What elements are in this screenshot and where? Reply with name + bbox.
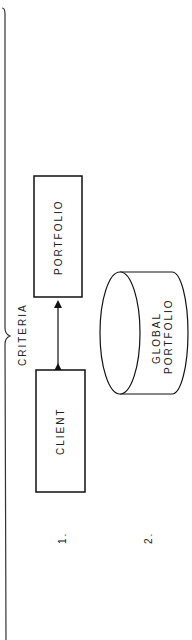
portfolio-label: PORTFOLIO: [53, 199, 64, 275]
database-label-line1: GLOBAL: [151, 312, 162, 364]
global-portfolio-database: GLOBAL PORTFOLIO: [100, 272, 188, 394]
client-box: CLIENT: [36, 370, 85, 492]
step-2-label: 2.: [143, 532, 154, 544]
step-1-label: 1.: [57, 532, 68, 544]
portfolio-box: PORTFOLIO: [34, 176, 82, 297]
client-label: CLIENT: [55, 407, 66, 455]
database-label-line2: PORTFOLIO: [163, 298, 174, 374]
criteria-label: CRITERIA: [17, 303, 28, 366]
criteria-brace: [2, 8, 10, 640]
diagram-canvas: CRITERIA PORTFOLIO CLIENT GLOBAL PORTFOL…: [0, 0, 192, 640]
